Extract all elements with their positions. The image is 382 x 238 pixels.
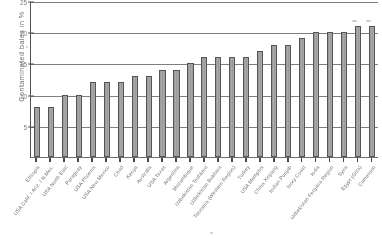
- x-axis-label-slot: Egypt (Giza): [355, 163, 361, 238]
- y-axis-tick-label: 25: [20, 0, 27, 6]
- bar: [229, 57, 235, 157]
- x-axis-tick: [187, 158, 193, 162]
- bar: [62, 95, 68, 157]
- x-axis-label-slot: USA North East: [61, 163, 67, 238]
- scan-speck: [210, 232, 213, 234]
- bar: [341, 32, 347, 157]
- x-axis-tick: [313, 158, 319, 162]
- x-axis-tick: [33, 158, 39, 162]
- x-axis-label-slot: Uzbekistan Fergana Region: [327, 163, 333, 238]
- x-axis-tick: [355, 158, 361, 162]
- bar: [369, 26, 375, 157]
- x-axis-label-slot: Cameroon: [369, 163, 375, 238]
- bar: [104, 82, 110, 157]
- x-axis-label-slot: India: [313, 163, 319, 238]
- bar: [90, 82, 96, 157]
- bar: [132, 76, 138, 157]
- x-axis-label-slot: Paraguay: [75, 163, 81, 238]
- x-axis-tick: [299, 158, 305, 162]
- x-axis-tick: [285, 158, 291, 162]
- bar-series: [31, 2, 378, 157]
- x-axis-label-slot: Indian Punjab: [285, 163, 291, 238]
- x-axis-tick: [75, 158, 81, 162]
- x-axis-tick: [243, 158, 249, 162]
- bar: [201, 57, 207, 157]
- x-axis-label-slot: Syria: [341, 163, 347, 238]
- x-axis-tick: [145, 158, 151, 162]
- x-axis-tick: [103, 158, 109, 162]
- x-axis-ticks: [30, 158, 378, 162]
- x-axis-category-label: Chad: [112, 164, 125, 178]
- x-axis-tick: [215, 158, 221, 162]
- x-axis-tick: [341, 158, 347, 162]
- bar: [313, 32, 319, 157]
- x-axis-label-slot: China Xinjiang: [271, 163, 277, 238]
- x-axis-tick: [159, 158, 165, 162]
- bar: [48, 107, 54, 157]
- x-axis-tick: [271, 158, 277, 162]
- bar: [146, 76, 152, 157]
- bar-chart: Contaminated bales in % 510152025 Ethiop…: [0, 0, 382, 238]
- bar: [355, 26, 361, 157]
- x-axis-tick: [201, 158, 207, 162]
- x-axis-label-slot: Kenya: [131, 163, 137, 238]
- x-axis-label-slot: USA New Mexico: [103, 163, 109, 238]
- x-axis-tick: [117, 158, 123, 162]
- bar: [159, 70, 165, 157]
- bar: [173, 70, 179, 157]
- x-axis-label-slot: Tanzania (Western Region): [229, 163, 235, 238]
- x-axis-tick: [369, 158, 375, 162]
- y-axis-tick-label: 5: [23, 123, 27, 130]
- x-axis-labels: EthiopiaUSA Calif. / Ariz. / N.Mex.USA N…: [30, 163, 378, 238]
- x-axis-label-slot: Uzbekistan Bukhara: [215, 163, 221, 238]
- bar: [187, 63, 193, 157]
- bar: [299, 38, 305, 157]
- x-axis-label-slot: USA Calif. / Ariz. / N.Mex.: [47, 163, 53, 238]
- x-axis-tick: [131, 158, 137, 162]
- x-axis-label-slot: USA Texas: [159, 163, 165, 238]
- bar: [215, 57, 221, 157]
- x-axis-tick: [61, 158, 67, 162]
- x-axis-tick: [257, 158, 263, 162]
- bar: [257, 51, 263, 157]
- x-axis-tick: [89, 158, 95, 162]
- x-axis-label-slot: USA Memphis: [257, 163, 263, 238]
- y-axis-tick-label: 15: [20, 61, 27, 68]
- bar: [76, 95, 82, 157]
- bar: [34, 107, 40, 157]
- x-axis-tick: [47, 158, 53, 162]
- x-axis-tick: [327, 158, 333, 162]
- x-axis-category-label: India: [308, 164, 320, 177]
- scan-speck: [366, 20, 371, 22]
- x-axis-label-slot: Australia: [145, 163, 151, 238]
- x-axis-tick: [173, 158, 179, 162]
- x-axis-tick: [229, 158, 235, 162]
- x-axis-label-slot: Chad: [117, 163, 123, 238]
- plot-area: 510152025: [30, 2, 378, 158]
- x-axis-category-label: Syria: [336, 164, 348, 177]
- scan-speck: [352, 20, 357, 22]
- bar: [118, 82, 124, 157]
- bar: [285, 45, 291, 157]
- bar: [327, 32, 333, 157]
- bar: [271, 45, 277, 157]
- bar: [243, 57, 249, 157]
- x-axis-label-slot: Ethiopia: [33, 163, 39, 238]
- y-axis-tick-label: 10: [20, 92, 27, 99]
- scan-speck: [26, 46, 28, 48]
- x-axis-label-slot: USA Phoenix: [89, 163, 95, 238]
- y-axis-tick-label: 20: [20, 30, 27, 37]
- x-axis-label-slot: Turkey: [243, 163, 249, 238]
